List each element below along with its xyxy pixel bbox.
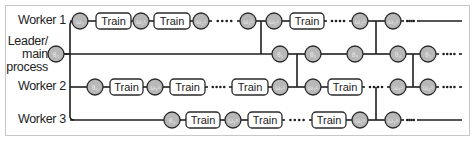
- ellipsis-dot: [223, 86, 226, 89]
- train-step-label: Train: [191, 114, 216, 126]
- parameter-node-label: θ₂: [310, 51, 317, 58]
- ellipsis-dot: [230, 20, 233, 23]
- spine-line: [70, 21, 74, 120]
- ellipsis-dot: [450, 86, 453, 89]
- ellipsis-dot: [216, 20, 219, 23]
- timeline-diagram: ω₀Trainω₁¹Trainω₂¹ω₁¹ω₀¹Trainω₂¹ω₀¹θ₀θ₁θ…: [0, 0, 476, 143]
- ellipsis-dot: [225, 20, 228, 23]
- ellipsis-dot: [212, 86, 215, 89]
- parameter-node-label: ω₁²: [150, 84, 160, 91]
- ellipsis-dot: [373, 86, 376, 89]
- ellipsis-dot: [369, 86, 372, 89]
- ellipsis-dot: [335, 20, 338, 23]
- parameter-node-label: θ₃: [352, 51, 359, 58]
- ellipsis-dot: [219, 86, 222, 89]
- ellipsis-dot: [446, 53, 449, 56]
- ellipsis-dot: [413, 20, 416, 23]
- train-step-label: Train: [295, 15, 320, 27]
- train-step-label: Train: [160, 15, 185, 27]
- parameter-node-label: ω₄²: [423, 84, 434, 91]
- parameter-node-label: ω₁²: [275, 84, 285, 91]
- parameter-node-label: θ₅: [425, 51, 432, 58]
- parameter-node-label: ω₂²: [308, 84, 319, 91]
- parameter-node-label: ω₀¹: [388, 18, 399, 25]
- ellipsis-dot: [298, 119, 301, 122]
- ellipsis-dot: [442, 86, 445, 89]
- ellipsis-dot: [343, 20, 346, 23]
- ellipsis-dot: [377, 86, 380, 89]
- ellipsis-dot: [453, 53, 456, 56]
- train-step-label: Train: [253, 114, 278, 126]
- parameter-node-label: ω₃²: [393, 84, 404, 91]
- ellipsis-dot: [289, 119, 292, 122]
- ellipsis-dot: [331, 20, 334, 23]
- ellipsis-dot: [453, 86, 456, 89]
- ellipsis-dot: [339, 20, 342, 23]
- parameter-node-label: θ₄: [395, 51, 402, 58]
- ellipsis-dot: [221, 20, 224, 23]
- parameter-node-label: θ₁: [277, 51, 284, 58]
- parameter-node-label: ω₁¹: [136, 18, 146, 25]
- parameter-node-label: ω₁¹: [243, 18, 253, 25]
- train-step-label: Train: [114, 81, 139, 93]
- ellipsis-dot: [381, 86, 384, 89]
- parameter-node-label: θ₀: [53, 51, 60, 58]
- parameter-node-label: ω₂³: [388, 117, 399, 124]
- parameter-node-label: ω₁³: [355, 117, 365, 124]
- train-step-label: Train: [175, 81, 200, 93]
- ellipsis-dot: [215, 86, 218, 89]
- parameter-node-label: ω₂¹: [196, 18, 207, 25]
- ellipsis-dot: [446, 86, 449, 89]
- train-step-label: Train: [238, 81, 263, 93]
- ellipsis-dot: [413, 119, 416, 122]
- train-step-label: Train: [317, 114, 342, 126]
- parameter-node-label: θ₀: [169, 117, 176, 124]
- ellipsis-dot: [294, 119, 297, 122]
- ellipsis-dot: [442, 53, 445, 56]
- parameter-node-label: θ₀: [92, 84, 99, 91]
- parameter-node-label: ω₁³: [228, 117, 238, 124]
- train-step-label: Train: [333, 81, 358, 93]
- parameter-node-label: ω₀: [76, 18, 84, 25]
- parameter-node-label: ω₂¹: [355, 18, 366, 25]
- ellipsis-dot: [302, 119, 305, 122]
- parameter-node-label: ω₀¹: [269, 18, 280, 25]
- train-step-label: Train: [101, 15, 126, 27]
- ellipsis-dot: [450, 53, 453, 56]
